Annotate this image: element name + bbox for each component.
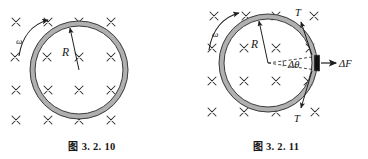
radius-arrow xyxy=(259,21,268,63)
figure-caption-prefix: 图 xyxy=(253,141,263,152)
field-mark-x-icon xyxy=(11,53,19,61)
field-mark-x-icon xyxy=(272,77,280,85)
figure-caption-prefix: 图 xyxy=(68,141,78,152)
field-mark-x-icon xyxy=(12,116,20,124)
radius-label: R xyxy=(61,46,69,58)
tension-bottom-label: T xyxy=(294,113,301,124)
figure-caption-number: 3. 2. 11 xyxy=(266,141,299,152)
radius-arrow xyxy=(70,28,79,70)
field-mark-x-icon xyxy=(310,12,318,20)
delta-theta-label: Δθ xyxy=(287,59,299,70)
field-mark-x-icon xyxy=(44,116,52,124)
delta-force-label: ΔF xyxy=(338,58,352,69)
field-mark-x-icon xyxy=(44,86,52,94)
field-mark-x-icon xyxy=(44,18,52,26)
figure-3-2-10-canvas: ω R xyxy=(0,0,184,159)
radius-label: R xyxy=(250,38,258,50)
field-mark-x-icon xyxy=(311,108,319,116)
field-mark-x-icon xyxy=(107,86,115,94)
field-mark-x-icon xyxy=(240,108,248,116)
tension-top-label: T xyxy=(295,7,302,18)
field-mark-x-icon xyxy=(12,86,20,94)
field-mark-x-icon xyxy=(107,18,115,26)
field-mark-x-icon xyxy=(75,86,83,94)
figure-board: ω R 图 3. 2. 10 xyxy=(0,0,368,159)
field-mark-x-icon xyxy=(272,44,280,52)
field-mark-x-icon xyxy=(210,12,218,20)
field-marks-group xyxy=(11,18,115,124)
ring-element-segment xyxy=(315,55,320,71)
field-mark-x-icon xyxy=(107,116,115,124)
field-mark-x-icon xyxy=(43,53,51,61)
omega-label: ω xyxy=(212,29,218,39)
field-mark-x-icon xyxy=(12,18,20,26)
figure-caption: 图 3. 2. 10 xyxy=(0,138,184,153)
figure-caption-number: 3. 2. 10 xyxy=(82,141,116,152)
field-mark-x-icon xyxy=(240,44,248,52)
field-mark-x-icon xyxy=(240,77,248,85)
field-mark-x-icon xyxy=(208,77,216,85)
figure-caption: 图 3. 2. 11 xyxy=(184,138,368,153)
omega-label: ω xyxy=(16,36,22,46)
figure-3-2-10: ω R 图 3. 2. 10 xyxy=(0,0,184,159)
figure-3-2-11-canvas: ω R T T Δθ ΔF xyxy=(184,0,368,159)
field-mark-x-icon xyxy=(107,53,115,61)
field-mark-x-icon xyxy=(208,108,216,116)
figure-3-2-11: ω R T T Δθ ΔF 图 3. 2. 11 xyxy=(184,0,368,159)
